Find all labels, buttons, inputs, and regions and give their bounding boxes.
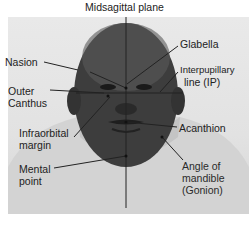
label-infraorbital-1: Infraorbital [19, 127, 69, 139]
label-gonion-2: mandible [182, 172, 225, 184]
label-mental-1: Mental [19, 163, 51, 175]
label-outer-canthus-1: Outer [8, 85, 34, 97]
label-nasion: Nasion [5, 56, 38, 68]
label-interpupillary-1: Interpupillary [180, 64, 234, 76]
label-gonion-1: Angle of [182, 160, 221, 172]
label-acanthion: Acanthion [179, 122, 226, 134]
label-outer-canthus-2: Canthus [8, 97, 47, 109]
label-interpupillary-2: line (IP) [184, 76, 220, 88]
label-mental-2: point [19, 175, 42, 187]
label-infraorbital-2: margin [19, 139, 51, 151]
label-gonion-3: (Gonion) [182, 184, 223, 196]
label-glabella: Glabella [180, 38, 219, 50]
